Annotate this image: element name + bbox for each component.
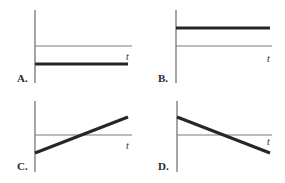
graphs-figure: tA. tB. tC. tD. [0, 0, 285, 183]
panel-b: tB. [158, 10, 272, 84]
panel-label: B. [158, 72, 168, 84]
panel-d: tD. [158, 101, 272, 172]
panel-label: A. [17, 72, 28, 84]
panel-c: tC. [17, 101, 132, 172]
t-axis-label: t [126, 140, 129, 151]
panel-a: tA. [17, 10, 132, 84]
t-axis-label: t [267, 136, 270, 147]
t-axis-label: t [267, 53, 270, 64]
panel-label: C. [17, 160, 28, 172]
t-axis-label: t [126, 51, 129, 62]
panel-label: D. [158, 160, 169, 172]
